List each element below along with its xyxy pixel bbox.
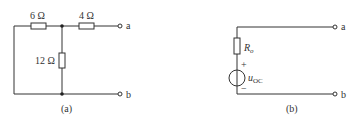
resistor-4ohm [79, 23, 94, 29]
caption-a: (a) [61, 103, 72, 115]
resistor-ro [234, 38, 240, 54]
terminal-a-label: a [126, 20, 131, 31]
caption-b: (b) [286, 103, 298, 115]
label-ro: Ro [243, 42, 254, 55]
terminal-a-node-b [333, 25, 337, 29]
resistor-12ohm [59, 53, 65, 68]
terminal-b-label-b: b [341, 89, 346, 100]
plus-sign: + [241, 59, 247, 70]
circuit-a: 6 Ω 4 Ω 12 Ω a b (a) [14, 10, 131, 115]
label-12ohm: 12 Ω [35, 55, 55, 66]
resistor-6ohm [31, 23, 46, 29]
terminal-a-node [118, 24, 122, 28]
outer-wire-a [14, 26, 118, 94]
circuit-diagram: 6 Ω 4 Ω 12 Ω a b (a) Ro + uOC − a b (b) [0, 0, 349, 123]
left-wire-b [237, 27, 333, 94]
minus-sign: − [241, 83, 247, 94]
terminal-b-label: b [126, 89, 131, 100]
label-uoc: uOC [248, 72, 263, 85]
terminal-a-label-b: a [341, 21, 346, 32]
terminal-b-node-b [333, 92, 337, 96]
circuit-b: Ro + uOC − a b (b) [229, 21, 346, 115]
junction-dot-bottom [60, 92, 64, 96]
label-4ohm: 4 Ω [79, 10, 94, 21]
terminal-b-node [118, 92, 122, 96]
junction-dot-top [60, 24, 64, 28]
label-6ohm: 6 Ω [30, 10, 45, 21]
